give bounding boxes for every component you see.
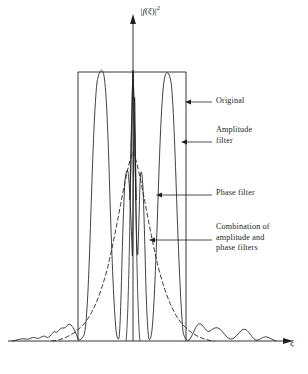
y-axis-label: |f(ξ)|2 xyxy=(140,4,160,16)
annotation-label-original: Original xyxy=(216,96,245,107)
leader-line-combination xyxy=(149,238,212,243)
leader-line-phase xyxy=(156,193,212,198)
x-axis-label: ξ xyxy=(290,338,294,348)
annotation-label-amplitude-filter: Amplitude filter xyxy=(216,125,252,146)
leader-line-original xyxy=(185,100,212,105)
figure-canvas xyxy=(0,0,308,374)
annotation-label-phase-filter: Phase filter xyxy=(216,188,255,199)
curve-amplitude-filter xyxy=(12,70,276,341)
annotation-label-combination-filter: Combination of amplitude and phase filte… xyxy=(216,222,270,254)
leader-line-amplitude xyxy=(181,140,212,145)
